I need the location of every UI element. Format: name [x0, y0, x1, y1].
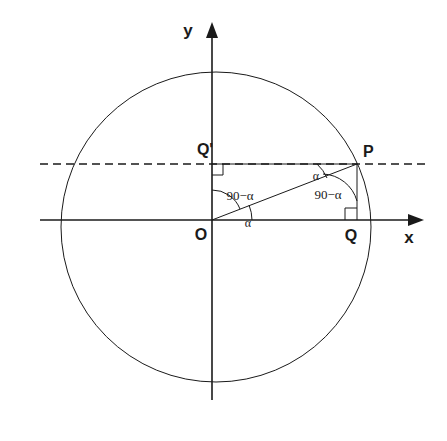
y-axis-arrowhead [206, 22, 218, 38]
geometry-canvas: y x O P Q Q' α 90−α α 90−α [0, 0, 447, 441]
x-axis-label: x [404, 228, 414, 247]
x-axis-arrowhead [408, 214, 424, 226]
point-label-Q: Q [345, 227, 357, 244]
right-angle-marker-Q [345, 208, 357, 220]
unit-circle [61, 72, 371, 382]
point-label-P: P [363, 143, 374, 160]
right-angle-marker-Qprime [212, 164, 223, 175]
angle-label-alpha-origin: α [245, 216, 252, 230]
angle-label-alpha-P: α [313, 169, 320, 183]
angle-label-complement-origin: 90−α [226, 188, 253, 203]
angle-label-complement-P: 90−α [314, 187, 341, 202]
point-label-origin: O [195, 226, 207, 243]
y-axis-label: y [183, 21, 193, 40]
geometry-figure: y x O P Q Q' α 90−α α 90−α [0, 0, 447, 441]
point-label-Qprime: Q' [197, 141, 213, 158]
